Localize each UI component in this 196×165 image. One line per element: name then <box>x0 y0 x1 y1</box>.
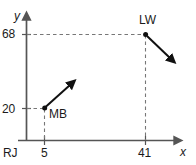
y-axis-label: y <box>14 10 20 22</box>
data-point-label-lw: LW <box>139 14 156 26</box>
y-axis-tick-label-68: 68 <box>2 28 15 40</box>
x-axis-tick-label-5: 5 <box>41 147 47 159</box>
x-axis-tick-label-41: 41 <box>138 147 151 159</box>
scatter-plot-figure: 68 20 5 41 RJ y x MB LW <box>0 0 196 165</box>
data-point-label-mb: MB <box>49 108 67 120</box>
mb-direction-arrow <box>46 85 71 107</box>
data-point-lw <box>143 32 148 37</box>
x-axis-label: x <box>180 146 186 158</box>
y-axis-tick-label-20: 20 <box>2 103 15 115</box>
data-point-mb <box>42 106 47 111</box>
lw-direction-arrow <box>147 36 170 58</box>
plot-canvas <box>0 0 196 165</box>
origin-label: RJ <box>3 147 17 159</box>
